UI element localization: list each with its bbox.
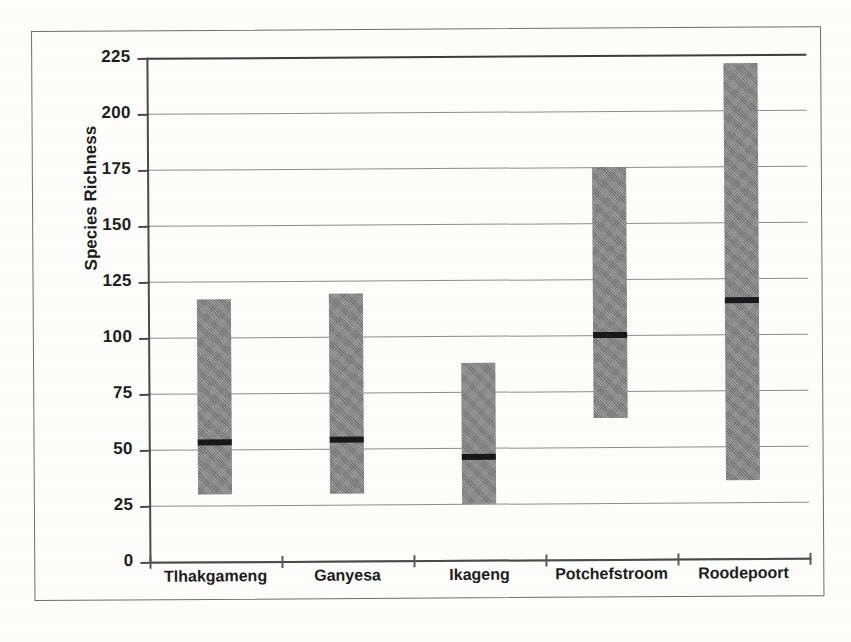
x-axis-ticks <box>0 0 849 1</box>
y-tick-225 <box>137 58 148 60</box>
y-tick-label-25: 25 <box>73 495 133 515</box>
range-bar <box>723 63 760 480</box>
bar-series <box>146 54 806 58</box>
bar-group <box>278 56 413 561</box>
x-axis-label-roodepoort: Roodepoort <box>678 564 810 583</box>
y-axis-tick-labels: 0255075100125150175200225 <box>0 0 849 1</box>
y-tick-label-200: 200 <box>71 103 131 123</box>
y-tick-label-100: 100 <box>72 327 132 347</box>
x-axis-label-ganyesa: Ganyesa <box>282 566 414 585</box>
median-line <box>462 454 496 460</box>
bar-group <box>542 55 677 560</box>
bar-group <box>410 55 545 560</box>
range-bar <box>197 299 232 494</box>
y-tick-25 <box>140 506 151 508</box>
bar-group <box>146 57 281 562</box>
y-axis-ticks <box>0 0 849 1</box>
plot-area <box>146 54 809 562</box>
median-line <box>198 440 232 446</box>
y-tick-150 <box>138 226 149 228</box>
median-line <box>593 332 627 338</box>
x-axis-label-tlhakgameng: Tlhakgameng <box>150 567 282 586</box>
y-tick-50 <box>140 450 151 452</box>
bar-group <box>674 54 809 559</box>
y-tick-label-225: 225 <box>70 47 130 67</box>
y-tick-label-125: 125 <box>72 271 132 291</box>
y-tick-175 <box>138 170 149 172</box>
y-tick-125 <box>139 282 150 284</box>
y-tick-label-50: 50 <box>73 439 133 459</box>
x-axis-label-potchefstroom: Potchefstroom <box>546 565 678 584</box>
x-tick <box>809 553 811 565</box>
y-tick-label-150: 150 <box>71 215 131 235</box>
y-tick-100 <box>139 338 150 340</box>
median-line <box>725 297 759 303</box>
x-axis-label-ikageng: Ikageng <box>414 565 546 584</box>
x-axis-tick-labels: TlhakgamengGanyesaIkagengPotchefstroomRo… <box>0 0 849 1</box>
range-bar <box>592 167 628 418</box>
range-bar <box>329 294 364 494</box>
y-tick-label-175: 175 <box>71 159 131 179</box>
median-line <box>330 437 364 443</box>
y-tick-200 <box>138 114 149 116</box>
chart-canvas: Species Richness 02550751001251501752002… <box>0 0 851 642</box>
y-tick-label-75: 75 <box>72 383 132 403</box>
y-tick-75 <box>139 394 150 396</box>
range-bar <box>461 363 496 504</box>
y-tick-label-0: 0 <box>73 551 133 571</box>
